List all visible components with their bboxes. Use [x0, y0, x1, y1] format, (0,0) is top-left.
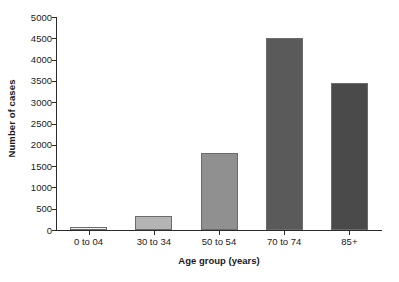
x-tick-label: 50 to 54 — [202, 236, 236, 247]
y-tick-label: 4500 — [20, 33, 52, 44]
bar — [266, 38, 303, 230]
bar — [135, 216, 172, 230]
y-tick-label: 3000 — [20, 97, 52, 108]
y-tick-mark — [52, 60, 56, 61]
y-axis-title-label: Number of cases — [6, 79, 17, 157]
y-tick-label: 4000 — [20, 54, 52, 65]
bar — [201, 153, 238, 230]
y-tick-label: 3500 — [20, 75, 52, 86]
y-tick-mark — [52, 102, 56, 103]
y-tick-mark — [52, 209, 56, 210]
y-axis-title: Number of cases — [0, 0, 22, 236]
bar — [331, 83, 368, 230]
y-tick-mark — [52, 17, 56, 18]
x-tick-label: 30 to 34 — [137, 236, 171, 247]
y-tick-mark — [52, 187, 56, 188]
x-tick-label: 85+ — [341, 236, 357, 247]
x-tick-label: 70 to 74 — [267, 236, 301, 247]
y-tick-mark — [52, 81, 56, 82]
y-tick-mark — [52, 38, 56, 39]
y-axis-tick-labels: 0500100015002000250030003500400045005000 — [20, 11, 52, 235]
y-tick-mark — [52, 230, 56, 231]
x-tick-mark — [154, 231, 155, 235]
y-tick-label: 1500 — [20, 161, 52, 172]
bar-chart-figure: Number of cases 050010001500200025003000… — [0, 0, 399, 282]
x-axis-title: Age group (years) — [56, 255, 382, 266]
bars-layer — [56, 17, 382, 230]
y-tick-label: 5000 — [20, 12, 52, 23]
y-tick-label: 2500 — [20, 118, 52, 129]
y-tick-label: 2000 — [20, 139, 52, 150]
y-tick-label: 500 — [20, 203, 52, 214]
x-tick-label: 0 to 04 — [74, 236, 103, 247]
x-tick-mark — [89, 231, 90, 235]
x-tick-mark — [284, 231, 285, 235]
y-tick-mark — [52, 124, 56, 125]
y-tick-mark — [52, 145, 56, 146]
y-tick-label: 1000 — [20, 182, 52, 193]
x-tick-mark — [349, 231, 350, 235]
plot-area — [56, 17, 382, 230]
bar — [70, 227, 107, 230]
x-axis-tick-labels: 0 to 0430 to 3450 to 5470 to 7485+ — [56, 236, 382, 250]
y-tick-mark — [52, 166, 56, 167]
x-tick-mark — [219, 231, 220, 235]
y-tick-label: 0 — [20, 225, 52, 236]
